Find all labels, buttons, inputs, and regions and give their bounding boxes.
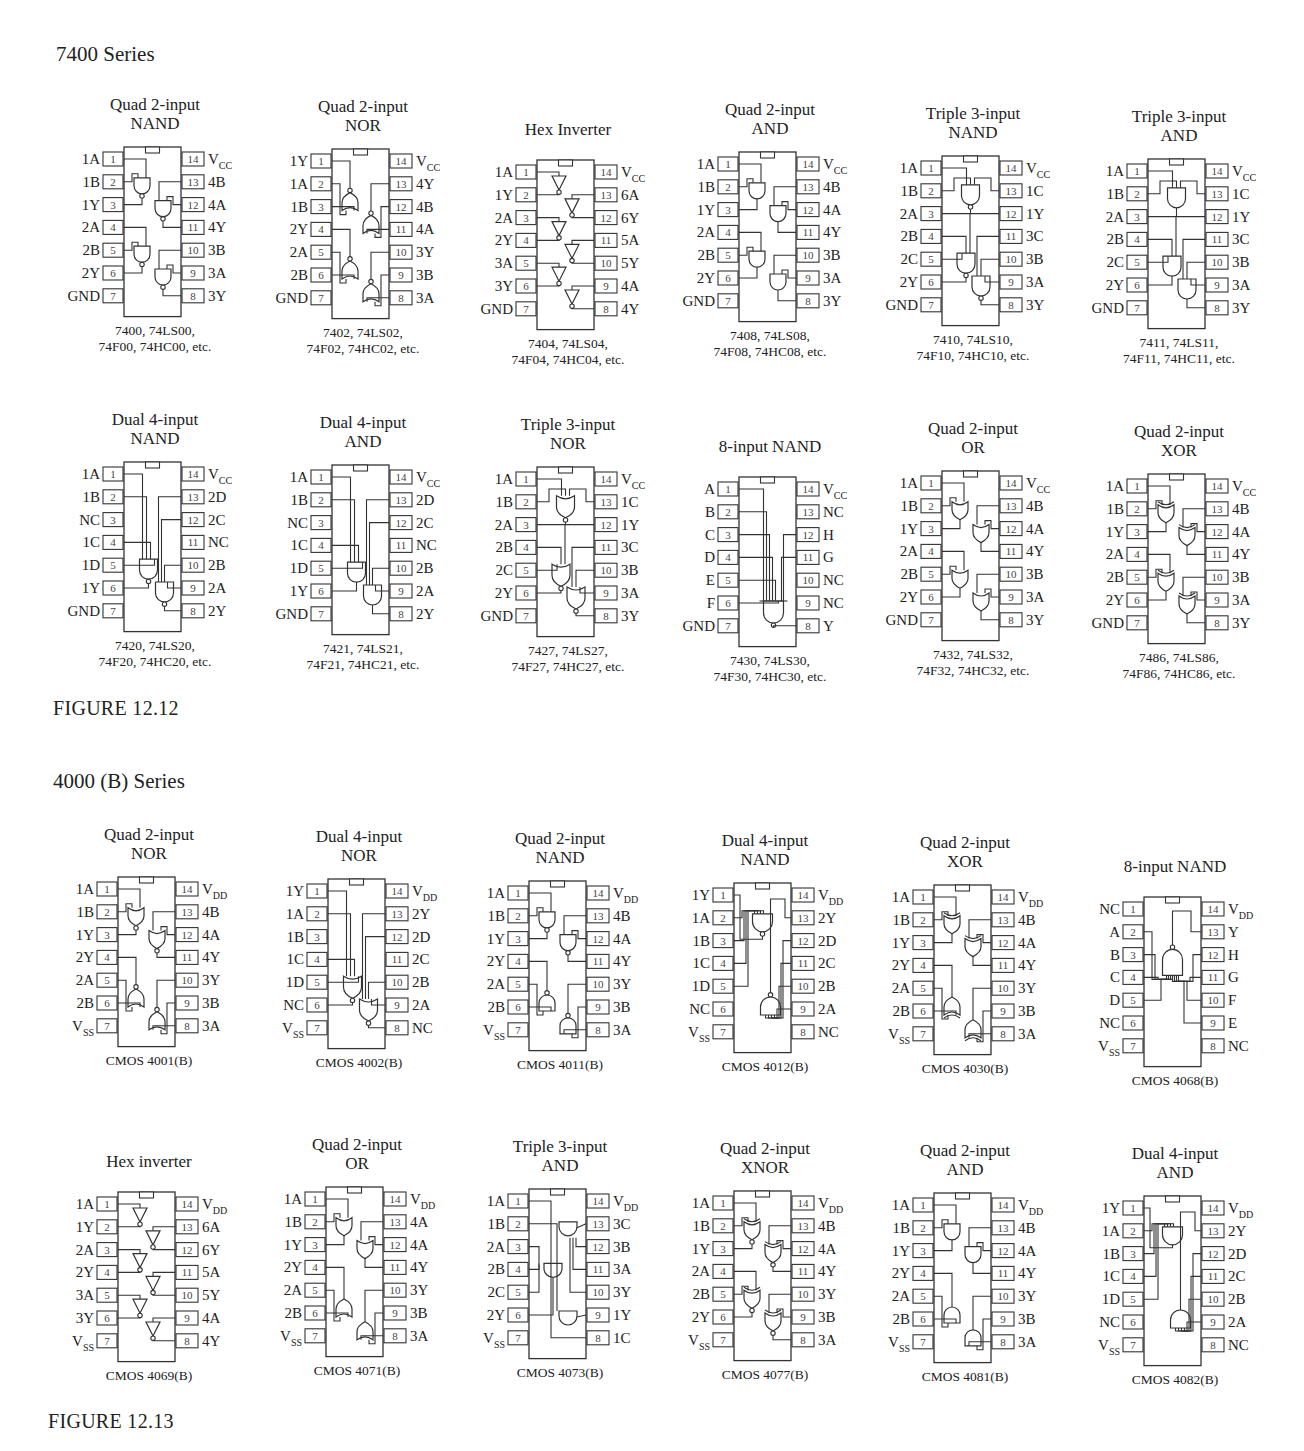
pin-number: 12 [1212,211,1223,223]
pin-number: 8 [1000,1336,1006,1348]
pin-number: 2 [110,491,116,503]
pin-label-right: 3Y [1026,612,1045,628]
pin-number: 2 [928,185,934,197]
pin-label-left: 2B [892,1311,910,1327]
pin-label-right: Y [1228,924,1239,940]
pin-label-right: 3B [1232,569,1250,585]
pin-label-right: 6Y [621,210,640,226]
pin-number: 6 [523,587,529,599]
pin-label-right: 1C [1026,183,1044,199]
pin-label-left: 2B [82,242,100,258]
pin-number: 12 [188,514,199,526]
chip-body [1144,1196,1201,1366]
series-heading: 4000 (B) Series [53,769,185,794]
pin-label-right: 1Y [613,1307,632,1323]
pin-label-right: 3A [1026,589,1045,605]
pin-label-right: 3A [1018,1026,1037,1042]
pin-label-left: 1Y [290,153,309,169]
pin-label-right: 3B [818,1309,836,1325]
pin-label-right: 3C [621,539,639,555]
pin-number: 4 [523,541,529,553]
pin-number: 3 [312,1239,318,1251]
notch-marker [761,477,775,483]
notch-marker [350,879,364,885]
pin-label-left: 2Y [692,1309,711,1325]
pin-label-right: 3A [613,1261,632,1277]
pin-label-right: 4A [202,927,221,943]
pin-number: 11 [1212,233,1223,245]
pin-label-left: 1A [82,466,101,482]
pin-label-left: 2B [697,247,715,263]
pin-number: 3 [318,517,324,529]
chip-pinout: 11A14VCC21B131C32A121Y42B113C52C103B62Y9… [1074,107,1284,347]
pin-number: 12 [593,1241,604,1253]
chip-body [1148,474,1205,644]
chip-part-numbers: CMOS 4002(B) [254,1055,464,1071]
pin-number: 8 [595,1024,601,1036]
pin-label-left: VSS [72,1333,94,1353]
notch-marker [956,1193,970,1199]
pin-number: 1 [920,1199,926,1211]
pin-label-right: 3Y [202,972,221,988]
ic-chip-diagram: 8-input NAND1NC14VDD2A13Y3B12H4C11G5D10F… [1070,845,1280,1115]
pin-number: 8 [1008,614,1014,626]
pin-number: 3 [1134,526,1140,538]
pin-label-right: 2Y [208,603,227,619]
pin-number: 6 [523,280,529,292]
pin-number: 8 [190,605,196,617]
pin-label-left: VSS [282,1020,304,1040]
notch-marker [140,877,154,883]
chip-part-numbers: 7430, 74LS30,74F30, 74HC30, etc. [665,653,875,685]
pin-number: 2 [523,496,529,508]
pin-label-left: 1A [692,1195,711,1211]
pin-number: 12 [803,204,814,216]
pin-number: 6 [515,1309,521,1321]
pin-number: 5 [928,568,934,580]
pin-number: 13 [1208,926,1220,938]
pin-label-left: 1Y [284,1237,303,1253]
pin-label-left: 2Y [487,953,506,969]
pin-number: 7 [523,610,529,622]
chip-pinout: 11A14VDD21B134B31Y124A42A114Y52B103Y62Y9… [660,1139,870,1379]
chip-body [739,152,796,322]
chip-part-numbers: 7400, 74LS00,74F00, 74HC00, etc. [50,323,260,355]
pin-number: 2 [720,912,726,924]
pin-label-left: 1A [1102,1223,1121,1239]
chip-pinout: 11A14VDD21B134B31Y124A42Y114Y52A103Y62B9… [860,1141,1070,1381]
pin-label-right: NC [416,537,437,553]
pin-number: 6 [725,272,731,284]
pin-label-left: 2Y [82,265,101,281]
pin-label-left: 1A [286,906,305,922]
pin-label-right: F [1228,992,1236,1008]
pin-label-left: 1D [1102,1291,1121,1307]
pin-number: 6 [314,999,320,1011]
pin-label-right: 3B [1026,566,1044,582]
pin-number: 6 [928,591,934,603]
pin-number: 5 [318,562,324,574]
chip-part-numbers: 7486, 74LS86,74F86, 74HC86, etc. [1074,650,1284,682]
pin-number: 3 [928,523,934,535]
pin-label-right: 4Y [818,1263,837,1279]
pin-label-right: 2Y [412,906,431,922]
pin-number: 4 [725,226,731,238]
pin-number: 11 [803,551,814,563]
pin-number: 6 [318,269,324,281]
pin-label-left: 2A [900,206,919,222]
pin-number: 2 [928,500,934,512]
pin-label-right: 3Y [410,1282,429,1298]
pin-label-right: Y [823,618,834,634]
pin-label-right: 2B [1228,1291,1246,1307]
pin-label-left: 1Y [76,1219,95,1235]
pin-label-left: 2Y [1106,592,1125,608]
ic-chip-diagram: Quad 2-inputNOR11Y14VCC21A134Y31B124B42Y… [258,97,468,367]
notch-marker [146,147,160,153]
pin-number: 12 [998,1245,1009,1257]
pin-number: 12 [396,517,407,529]
pin-label-right: 4A [1026,521,1045,537]
pin-label-left: NC [1099,1314,1120,1330]
pin-number: 14 [182,883,194,895]
pin-label-left: D [1109,992,1120,1008]
pin-number: 2 [1130,926,1136,938]
pin-number: 8 [392,1330,398,1342]
pin-number: 11 [1212,548,1223,560]
